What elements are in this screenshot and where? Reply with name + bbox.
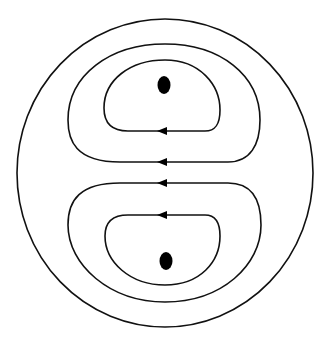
arrow-left-icon [157, 211, 167, 219]
vortex-diagram [0, 0, 327, 341]
upper-outer-streamline [68, 44, 260, 162]
arrow-left-icon [157, 179, 167, 187]
arrow-left-icon [157, 127, 167, 135]
lower-inner-streamline [105, 215, 220, 285]
lower-vortex-center-dot [160, 252, 173, 270]
upper-vortex-center-dot [158, 76, 171, 94]
upper-inner-streamline [104, 60, 220, 131]
lower-outer-streamline [68, 183, 261, 302]
arrow-left-icon [157, 158, 167, 166]
outer-boundary-circle [17, 19, 313, 327]
